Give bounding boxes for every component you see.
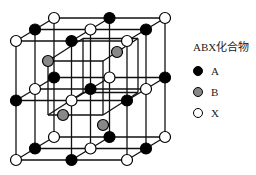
atom-a — [85, 84, 96, 95]
legend-label-x: X — [211, 107, 219, 119]
legend-item-x: X — [193, 102, 249, 123]
atom-a — [11, 95, 22, 106]
atom-b — [98, 120, 109, 131]
atom-a — [104, 132, 115, 143]
atom-a — [66, 155, 77, 166]
legend-item-a: A — [193, 60, 249, 81]
legend: ABX化合物 A B X — [193, 38, 249, 123]
black-circle-icon — [193, 66, 203, 76]
atom-a — [49, 72, 60, 83]
atom-x — [49, 13, 60, 24]
atom-b — [43, 56, 54, 67]
atom-a — [122, 95, 133, 106]
atom-a — [104, 13, 115, 24]
atom-x — [11, 36, 22, 47]
crystal-structure-diagram — [0, 0, 180, 175]
atom-b — [112, 47, 123, 58]
atom-a — [141, 143, 152, 154]
atom-x — [85, 143, 96, 154]
atom-a — [30, 24, 41, 35]
legend-label-b: B — [211, 86, 218, 98]
atom-a — [160, 72, 171, 83]
atom-x — [122, 36, 133, 47]
legend-label-a: A — [211, 65, 219, 77]
atom-x — [104, 72, 115, 83]
atom-x — [160, 13, 171, 24]
legend-item-b: B — [193, 81, 249, 102]
atom-x — [122, 155, 133, 166]
inner-cube-edge — [103, 93, 138, 116]
atom-a — [66, 36, 77, 47]
atom-a — [141, 24, 152, 35]
atom-x — [66, 95, 77, 106]
legend-title: ABX化合物 — [193, 38, 249, 54]
atom-b — [58, 110, 69, 121]
atom-x — [30, 84, 41, 95]
atom-x — [85, 24, 96, 35]
atom-x — [141, 84, 152, 95]
white-circle-icon — [193, 108, 203, 118]
atom-x — [49, 132, 60, 143]
gray-circle-icon — [193, 87, 203, 97]
atom-x — [11, 155, 22, 166]
atom-x — [160, 132, 171, 143]
atom-a — [30, 143, 41, 154]
